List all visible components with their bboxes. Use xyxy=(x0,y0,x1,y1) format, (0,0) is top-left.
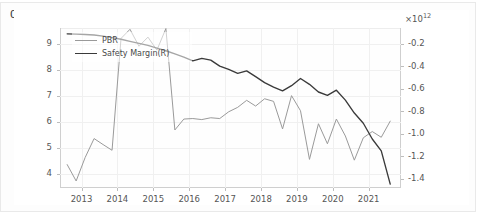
legend-swatch-safety-margin xyxy=(75,53,97,54)
y-tick-left-label: 7 xyxy=(14,90,52,100)
legend-label-safety-margin: Safety Margin(R) xyxy=(102,49,169,58)
x-tick-label: 2013 xyxy=(62,194,102,204)
x-tick-label: 2014 xyxy=(97,194,137,204)
y-tick-left-label: 4 xyxy=(14,168,52,178)
y-tick-left-label: 6 xyxy=(14,116,52,126)
x-tick-mark xyxy=(189,188,190,191)
y-tick-right-label: -0.4 xyxy=(408,61,425,71)
y-tick-right-mark xyxy=(401,89,404,90)
y-tick-right-mark xyxy=(401,44,404,45)
chart-legend: PBR Safety Margin(R) xyxy=(72,32,192,62)
x-tick-mark xyxy=(369,188,370,191)
y-tick-left-mark xyxy=(57,96,60,97)
y-tick-right-mark xyxy=(401,179,404,180)
x-tick-mark xyxy=(261,188,262,191)
x-tick-label: 2019 xyxy=(277,194,317,204)
y-axis-right-exponent-label: ×1012 xyxy=(405,12,431,24)
y-tick-right-label: -0.6 xyxy=(408,83,425,93)
x-tick-label: 2020 xyxy=(313,194,353,204)
legend-item-pbr[interactable]: PBR xyxy=(75,34,189,47)
y-tick-right-label: -1.2 xyxy=(408,151,425,161)
y-tick-left-label: 9 xyxy=(14,38,52,48)
x-tick-mark xyxy=(297,188,298,191)
x-tick-label: 2017 xyxy=(205,194,245,204)
x-tick-label: 2015 xyxy=(133,194,173,204)
y-tick-left-label: 8 xyxy=(14,64,52,74)
y-tick-right-label: -1.0 xyxy=(408,128,425,138)
y-tick-right-mark xyxy=(401,111,404,112)
screenshot-root: Out 456789 -0.2-0.4-0.6-0.8-1.0-1.2-1.4 … xyxy=(0,0,477,215)
x-tick-mark xyxy=(225,188,226,191)
x-tick-mark xyxy=(153,188,154,191)
x-tick-label: 2018 xyxy=(241,194,281,204)
y-tick-right-label: -1.4 xyxy=(408,173,425,183)
y-tick-right-mark xyxy=(401,156,404,157)
y-tick-right-label: -0.8 xyxy=(408,106,425,116)
legend-item-safety-margin[interactable]: Safety Margin(R) xyxy=(75,47,189,60)
y-tick-left-mark xyxy=(57,174,60,175)
y-tick-left-mark xyxy=(57,70,60,71)
legend-label-pbr: PBR xyxy=(102,36,118,45)
y-tick-right-mark xyxy=(401,134,404,135)
x-tick-mark xyxy=(333,188,334,191)
y-tick-left-label: 5 xyxy=(14,142,52,152)
legend-swatch-pbr xyxy=(75,40,97,41)
x-tick-mark xyxy=(82,188,83,191)
y-tick-left-mark xyxy=(57,122,60,123)
x-tick-label: 2016 xyxy=(169,194,209,204)
y-tick-left-mark xyxy=(57,44,60,45)
matplotlib-figure: 456789 -0.2-0.4-0.6-0.8-1.0-1.2-1.4 2013… xyxy=(14,10,469,205)
x-tick-mark xyxy=(117,188,118,191)
y-tick-right-label: -0.2 xyxy=(408,38,425,48)
y-tick-right-mark xyxy=(401,66,404,67)
x-tick-label: 2021 xyxy=(349,194,389,204)
y-tick-left-mark xyxy=(57,148,60,149)
